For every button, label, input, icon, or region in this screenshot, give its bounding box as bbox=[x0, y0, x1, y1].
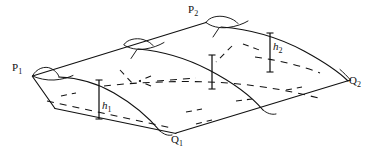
hidden-chord-mid bbox=[157, 78, 196, 81]
label-h2: h2 bbox=[273, 41, 283, 55]
rib-edge-left-bottom bbox=[55, 109, 176, 134]
rail-q1-q2 bbox=[176, 80, 351, 133]
ridge-apex-1-stem bbox=[131, 50, 137, 59]
p2-cap-upper-arc bbox=[206, 16, 238, 23]
p2-cap-lower-arc bbox=[206, 21, 248, 28]
rail-p1-p2 bbox=[33, 23, 207, 77]
label-h1: h1 bbox=[102, 100, 112, 114]
label-q2: Q2 bbox=[349, 75, 361, 89]
p2-cap-stem bbox=[213, 28, 219, 37]
hidden-diagonal-long bbox=[104, 82, 322, 99]
hidden-tick-mid-low bbox=[186, 109, 202, 112]
crest-curve-middle-tail bbox=[263, 110, 276, 114]
hidden-tick-left-low bbox=[61, 93, 76, 96]
figure-canvas: P1 P2 Q1 Q2 h1 h2 bbox=[0, 0, 375, 152]
rib-curve-left-front bbox=[33, 77, 56, 109]
surface-diagram-svg bbox=[0, 0, 375, 152]
label-p2: P2 bbox=[188, 4, 198, 18]
hidden-rib-upper-left bbox=[120, 70, 133, 84]
hidden-tick-right-low bbox=[236, 99, 252, 101]
crest-curve-middle bbox=[138, 49, 263, 110]
hidden-rib-upper-right bbox=[216, 46, 232, 62]
hidden-rib-arrowhead-b bbox=[139, 81, 151, 86]
hidden-rib-upper-right-2 bbox=[243, 44, 262, 51]
back-crest-curve-to-q2 bbox=[221, 27, 348, 81]
hidden-tick-q1-right bbox=[196, 120, 212, 124]
hidden-rib-arrowhead-a bbox=[139, 76, 151, 81]
label-p1: P1 bbox=[12, 62, 22, 76]
hidden-back-chord-right bbox=[255, 57, 320, 73]
label-q1: Q1 bbox=[171, 134, 183, 148]
hidden-tick-far-right bbox=[286, 87, 302, 90]
